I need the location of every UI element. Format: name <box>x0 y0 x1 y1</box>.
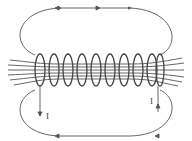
solenoid-diagram <box>0 0 192 141</box>
field-line-top-outer <box>20 8 172 55</box>
current-label-right: I <box>150 97 153 106</box>
current-label-left: I <box>46 112 49 121</box>
